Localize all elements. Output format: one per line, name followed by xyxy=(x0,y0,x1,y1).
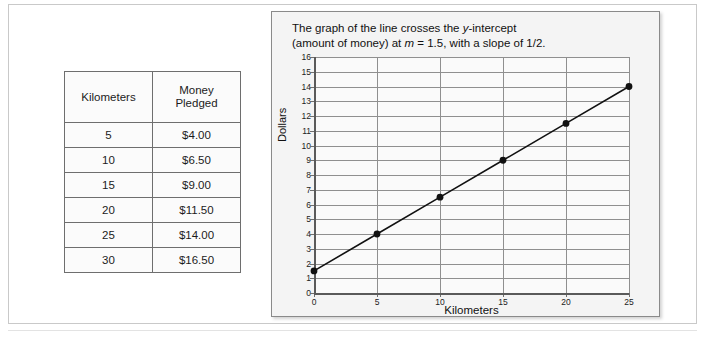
y-tick-label: 10 xyxy=(295,142,311,150)
table-row: 30$16.50 xyxy=(65,248,241,273)
y-tick-label: 6 xyxy=(295,201,311,209)
data-series xyxy=(314,57,629,293)
caption-line1-part2: -intercept xyxy=(468,22,516,34)
y-tick-label: 7 xyxy=(295,186,311,194)
y-tick-label: 11 xyxy=(295,127,311,135)
page-root: Kilometers Money Pledged 5$4.0010$6.5015… xyxy=(0,0,709,344)
caption-line1-part1: The graph of the line crosses the xyxy=(292,22,463,34)
cell-kilometers: 10 xyxy=(65,148,153,173)
data-point-marker xyxy=(437,194,444,201)
table-body: 5$4.0010$6.5015$9.0020$11.5025$14.0030$1… xyxy=(65,123,241,273)
cell-money-pledged: $4.00 xyxy=(153,123,241,148)
y-tick-label: 0 xyxy=(295,289,311,297)
data-table-container: Kilometers Money Pledged 5$4.0010$6.5015… xyxy=(64,71,240,273)
chart-caption: The graph of the line crosses the y-inte… xyxy=(292,21,637,51)
cell-kilometers: 30 xyxy=(65,248,153,273)
cell-kilometers: 20 xyxy=(65,198,153,223)
y-tick-label: 4 xyxy=(295,230,311,238)
caption-line2-part1: (amount of money) at xyxy=(292,37,405,49)
cell-kilometers: 5 xyxy=(65,123,153,148)
plot-area: 012345678910111213141516 0510152025 xyxy=(314,57,629,293)
caption-variable-m: m xyxy=(405,37,415,49)
table-header-row: Kilometers Money Pledged xyxy=(65,72,241,123)
cell-money-pledged: $11.50 xyxy=(153,198,241,223)
table-row: 20$11.50 xyxy=(65,198,241,223)
table-row: 25$14.00 xyxy=(65,223,241,248)
column-header-kilometers: Kilometers xyxy=(65,72,153,123)
y-tick-label: 16 xyxy=(295,53,311,61)
y-tick-label: 2 xyxy=(295,260,311,268)
table-row: 10$6.50 xyxy=(65,148,241,173)
chart-panel: The graph of the line crosses the y-inte… xyxy=(271,11,660,317)
y-tick-label: 5 xyxy=(295,215,311,223)
y-tick-label: 15 xyxy=(295,68,311,76)
cell-kilometers: 25 xyxy=(65,223,153,248)
pledge-table: Kilometers Money Pledged 5$4.0010$6.5015… xyxy=(64,71,241,273)
y-axis-title: Dollars xyxy=(276,108,288,142)
table-row: 5$4.00 xyxy=(65,123,241,148)
cell-money-pledged: $14.00 xyxy=(153,223,241,248)
cell-kilometers: 15 xyxy=(65,173,153,198)
column-header-money-line2: Pledged xyxy=(175,97,217,109)
y-tick-label: 13 xyxy=(295,97,311,105)
cell-money-pledged: $9.00 xyxy=(153,173,241,198)
x-gridline xyxy=(629,57,630,293)
data-point-marker xyxy=(374,231,381,238)
y-tick-label: 3 xyxy=(295,245,311,253)
page-divider xyxy=(8,330,697,331)
y-tick-label: 9 xyxy=(295,156,311,164)
cell-money-pledged: $6.50 xyxy=(153,148,241,173)
x-axis-title: Kilometers xyxy=(314,304,629,316)
column-header-money-pledged: Money Pledged xyxy=(153,72,241,123)
data-point-marker xyxy=(311,267,318,274)
column-header-money-line1: Money xyxy=(179,84,214,96)
data-point-marker xyxy=(500,157,507,164)
x-axis-line xyxy=(314,293,629,295)
y-tick-label: 14 xyxy=(295,83,311,91)
data-point-marker xyxy=(626,83,633,90)
caption-line2-part2: = 1.5, with a slope of 1/2. xyxy=(414,37,545,49)
cell-money-pledged: $16.50 xyxy=(153,248,241,273)
y-tick-label: 1 xyxy=(295,274,311,282)
series-line xyxy=(314,87,629,271)
x-tick-mark xyxy=(629,293,630,297)
table-row: 15$9.00 xyxy=(65,173,241,198)
y-tick-label: 8 xyxy=(295,171,311,179)
y-tick-label: 12 xyxy=(295,112,311,120)
data-point-marker xyxy=(563,120,570,127)
